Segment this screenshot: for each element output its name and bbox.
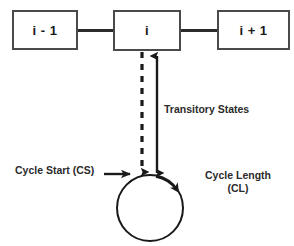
- cycle-length-label-line1: Cycle Length: [205, 169, 271, 181]
- cycle-length-label-line2: (CL): [228, 182, 249, 194]
- transitory-states-label: Transitory States: [164, 103, 249, 116]
- state-node-next-label: i + 1: [239, 24, 267, 37]
- state-node-current[interactable]: i: [113, 10, 181, 51]
- cycle-length-label: Cycle Length (CL): [190, 169, 286, 195]
- state-node-previous[interactable]: i - 1: [12, 10, 78, 50]
- cycle-start-label: Cycle Start (CS): [15, 164, 94, 177]
- diagram-canvas: i - 1 i i + 1 Transitory States Cycle St…: [0, 0, 294, 246]
- state-node-next[interactable]: i + 1: [217, 10, 290, 50]
- state-node-current-label: i: [145, 24, 149, 37]
- state-node-previous-label: i - 1: [33, 24, 58, 37]
